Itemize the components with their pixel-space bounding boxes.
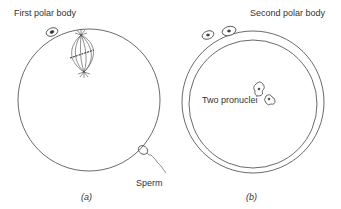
- diagram-drawing: [0, 0, 341, 209]
- meiotic-spindle: [70, 29, 94, 78]
- second-polar-body-label: Second polar body: [250, 8, 325, 18]
- sperm-label: Sperm: [136, 178, 163, 188]
- two-pronuclei-label: Two pronuclei: [202, 95, 258, 105]
- first-polar-body-label: First polar body: [14, 8, 76, 18]
- panel-b-caption: (b): [246, 192, 257, 202]
- egg-cell-a: [18, 29, 160, 171]
- panel-a-caption: (a): [81, 192, 92, 202]
- fertilization-diagram: First polar body Sperm (a) Second polar …: [0, 0, 341, 209]
